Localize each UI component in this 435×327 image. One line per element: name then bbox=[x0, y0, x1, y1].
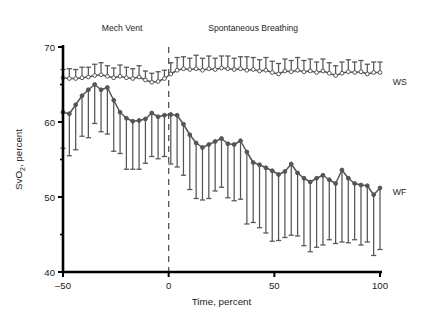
y-axis-title: SvO2, percent bbox=[13, 129, 26, 190]
data-point-wf bbox=[207, 143, 211, 147]
markers-ws bbox=[61, 66, 382, 84]
data-point-ws bbox=[359, 70, 363, 74]
data-point-ws bbox=[283, 69, 287, 73]
x-tick-label: 50 bbox=[269, 280, 280, 291]
data-point-ws bbox=[201, 68, 205, 72]
y-tick-label: 40 bbox=[44, 267, 55, 278]
y-tick-label: 60 bbox=[44, 117, 55, 128]
data-point-wf bbox=[251, 161, 255, 165]
series-label-wf: WF bbox=[393, 187, 407, 197]
data-point-ws bbox=[232, 68, 236, 72]
data-point-ws bbox=[321, 69, 325, 73]
data-point-ws bbox=[346, 70, 350, 74]
data-point-wf bbox=[182, 122, 186, 126]
y-axis-title-tail: , percent bbox=[13, 129, 24, 167]
data-point-wf bbox=[226, 142, 230, 146]
data-point-ws bbox=[378, 71, 382, 75]
data-point-ws bbox=[340, 71, 344, 75]
data-point-wf bbox=[353, 182, 357, 186]
data-point-ws bbox=[105, 74, 109, 78]
data-point-wf bbox=[150, 111, 154, 115]
data-point-wf bbox=[327, 178, 331, 182]
data-point-wf bbox=[112, 98, 116, 102]
data-point-ws bbox=[226, 67, 230, 71]
error-bars-wf bbox=[60, 85, 382, 256]
x-tick-label: –50 bbox=[55, 280, 71, 291]
data-point-wf bbox=[201, 146, 205, 150]
data-point-ws bbox=[372, 71, 376, 75]
data-point-ws bbox=[93, 74, 97, 78]
data-point-wf bbox=[213, 140, 217, 144]
data-point-wf bbox=[359, 183, 363, 187]
data-point-wf bbox=[346, 176, 350, 180]
data-point-wf bbox=[308, 180, 312, 184]
data-point-ws bbox=[144, 78, 148, 82]
data-point-ws bbox=[353, 71, 357, 75]
data-point-wf bbox=[93, 83, 97, 87]
data-point-wf bbox=[245, 150, 249, 154]
data-point-wf bbox=[289, 162, 293, 166]
series-label-ws: WS bbox=[393, 77, 407, 87]
data-point-ws bbox=[67, 77, 71, 81]
data-point-ws bbox=[296, 68, 300, 72]
data-point-wf bbox=[258, 163, 262, 167]
data-point-ws bbox=[245, 68, 249, 72]
data-point-ws bbox=[118, 74, 122, 78]
x-tick-label: 0 bbox=[166, 280, 171, 291]
data-point-ws bbox=[308, 69, 312, 73]
data-point-wf bbox=[321, 173, 325, 177]
data-point-ws bbox=[334, 74, 338, 78]
data-point-wf bbox=[277, 173, 281, 177]
data-point-ws bbox=[169, 72, 173, 76]
chart-figure: Mech VentSpontaneous BreathingWSWF405060… bbox=[0, 0, 435, 327]
data-point-ws bbox=[315, 71, 319, 75]
data-point-wf bbox=[296, 171, 300, 175]
data-point-wf bbox=[118, 110, 122, 114]
data-point-wf bbox=[264, 166, 268, 170]
y-axis-title-main: SvO bbox=[13, 171, 24, 190]
mech-vent-label: Mech Vent bbox=[102, 23, 143, 33]
data-point-ws bbox=[239, 67, 243, 71]
data-point-wf bbox=[232, 143, 236, 147]
data-point-wf bbox=[270, 169, 274, 173]
data-point-wf bbox=[340, 168, 344, 172]
series-ws bbox=[60, 55, 382, 84]
data-point-ws bbox=[125, 76, 129, 80]
data-point-wf bbox=[372, 193, 376, 197]
data-point-ws bbox=[264, 68, 268, 72]
data-point-ws bbox=[277, 72, 281, 76]
svo2-time-line-chart: Mech VentSpontaneous BreathingWSWF405060… bbox=[0, 0, 435, 327]
data-point-wf bbox=[239, 139, 243, 143]
data-point-wf bbox=[125, 116, 129, 120]
data-point-ws bbox=[137, 75, 141, 79]
data-point-wf bbox=[175, 113, 179, 117]
data-point-wf bbox=[144, 117, 148, 121]
data-point-ws bbox=[74, 77, 78, 81]
data-point-wf bbox=[156, 115, 160, 119]
data-point-ws bbox=[86, 75, 90, 79]
data-point-wf bbox=[334, 182, 338, 186]
data-point-wf bbox=[80, 94, 84, 98]
data-point-ws bbox=[365, 72, 369, 76]
data-point-wf bbox=[365, 184, 369, 188]
data-point-ws bbox=[163, 77, 167, 81]
data-point-wf bbox=[194, 141, 198, 145]
data-point-wf bbox=[283, 170, 287, 174]
data-point-ws bbox=[302, 70, 306, 74]
data-point-ws bbox=[220, 66, 224, 70]
data-point-ws bbox=[289, 70, 293, 74]
data-point-wf bbox=[378, 186, 382, 190]
spontaneous-breathing-label: Spontaneous Breathing bbox=[208, 23, 298, 33]
data-point-wf bbox=[99, 88, 103, 92]
data-point-ws bbox=[270, 71, 274, 75]
data-point-wf bbox=[163, 113, 167, 117]
data-point-ws bbox=[131, 77, 135, 81]
data-point-wf bbox=[137, 119, 141, 123]
data-point-wf bbox=[105, 86, 109, 90]
data-point-ws bbox=[194, 67, 198, 71]
data-point-wf bbox=[86, 88, 90, 92]
data-point-ws bbox=[175, 68, 179, 72]
series-wf bbox=[60, 83, 382, 256]
data-point-ws bbox=[251, 68, 255, 72]
data-point-ws bbox=[150, 80, 154, 84]
